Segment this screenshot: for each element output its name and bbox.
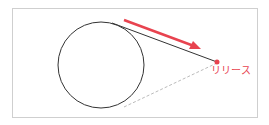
diagram-canvas xyxy=(0,0,269,125)
dashed-tangent-line xyxy=(124,63,217,107)
circle xyxy=(58,22,144,108)
release-point xyxy=(215,60,220,65)
release-arrow xyxy=(124,20,201,49)
release-label: リリース xyxy=(211,66,251,76)
tangent-line xyxy=(112,23,217,62)
